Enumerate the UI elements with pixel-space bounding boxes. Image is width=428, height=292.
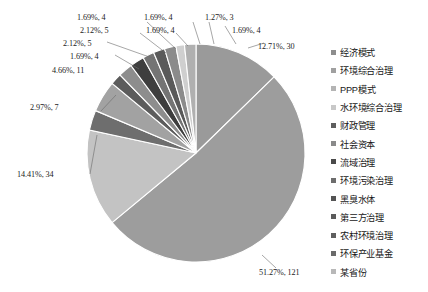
legend-item-label: 黑臭水体 bbox=[340, 192, 375, 206]
legend-item[interactable]: 第三方治理 bbox=[331, 208, 427, 226]
legend-item[interactable]: 黑臭水体 bbox=[331, 189, 427, 207]
data-label-top-1: 1.69%, 4 bbox=[77, 13, 106, 23]
legend-item-label: 水环境综合治理 bbox=[340, 100, 402, 114]
legend-swatch-icon bbox=[331, 86, 336, 91]
legend-item[interactable]: 环境污染治理 bbox=[331, 171, 427, 189]
legend-swatch-icon bbox=[331, 233, 336, 238]
data-label-left-3: 4.66%, 11 bbox=[52, 66, 84, 76]
legend-item[interactable]: PPP模式 bbox=[331, 80, 427, 98]
legend-item[interactable]: 农村环境治理 bbox=[331, 226, 427, 244]
legend-item[interactable]: 经济模式 bbox=[331, 43, 427, 61]
legend-item[interactable]: 环保产业基金 bbox=[331, 244, 427, 262]
legend-swatch-icon bbox=[331, 50, 336, 55]
data-label-left-5: 14.41%, 34 bbox=[17, 170, 54, 180]
legend-item-label: 财政管理 bbox=[340, 118, 375, 132]
data-label-top-6: 1.69%, 4 bbox=[146, 26, 175, 36]
legend-item-label: 某省份 bbox=[340, 265, 366, 279]
legend-item[interactable]: 环境综合治理 bbox=[331, 61, 427, 79]
pie-chart-figure: 1.69%, 4 1.69%, 4 1.27%, 3 1.69%, 4 2.12… bbox=[0, 0, 428, 292]
data-label-top-4: 1.69%, 4 bbox=[232, 26, 261, 36]
legend-swatch-icon bbox=[331, 178, 336, 183]
data-label-top-3: 1.27%, 3 bbox=[205, 13, 234, 23]
legend-item-label: 环境污染治理 bbox=[340, 173, 393, 187]
legend-item[interactable]: 财政管理 bbox=[331, 116, 427, 134]
data-label-left-4: 2.97%, 7 bbox=[30, 103, 59, 113]
legend-item-label: 环保产业基金 bbox=[340, 246, 393, 260]
legend-swatch-icon bbox=[331, 141, 336, 146]
legend-item-label: 第三方治理 bbox=[340, 210, 384, 224]
legend-swatch-icon bbox=[331, 269, 336, 274]
legend-item-label: 流域治理 bbox=[340, 155, 375, 169]
pie-slices-group bbox=[87, 44, 305, 262]
legend-swatch-icon bbox=[331, 214, 336, 219]
legend-item-label: PPP模式 bbox=[340, 82, 375, 96]
legend-swatch-icon bbox=[331, 196, 336, 201]
legend-swatch-icon bbox=[331, 251, 336, 256]
data-label-left-2: 1.69%, 4 bbox=[70, 52, 99, 62]
legend-item-label: 社会资本 bbox=[340, 137, 375, 151]
data-label-bottom-1: 51.27%, 121 bbox=[259, 268, 300, 278]
legend-item[interactable]: 某省份 bbox=[331, 263, 427, 281]
legend-swatch-icon bbox=[331, 123, 336, 128]
legend-swatch-icon bbox=[331, 68, 336, 73]
legend-swatch-icon bbox=[331, 159, 336, 164]
legend-item-label: 环境综合治理 bbox=[340, 63, 393, 77]
legend-item[interactable]: 社会资本 bbox=[331, 134, 427, 152]
legend-item-label: 经济模式 bbox=[340, 45, 375, 59]
legend-item[interactable]: 流域治理 bbox=[331, 153, 427, 171]
legend-item[interactable]: 水环境综合治理 bbox=[331, 98, 427, 116]
data-label-top-5: 2.12%, 5 bbox=[80, 26, 109, 36]
legend-item-label: 农村环境治理 bbox=[340, 228, 393, 242]
data-label-right-1: 12.71%, 30 bbox=[258, 42, 295, 52]
legend-swatch-icon bbox=[331, 105, 336, 110]
data-label-top-2: 1.69%, 4 bbox=[144, 13, 173, 23]
chart-legend: 经济模式环境综合治理PPP模式水环境综合治理财政管理社会资本流域治理环境污染治理… bbox=[331, 43, 427, 281]
data-label-left-1: 2.12%, 5 bbox=[63, 39, 92, 49]
